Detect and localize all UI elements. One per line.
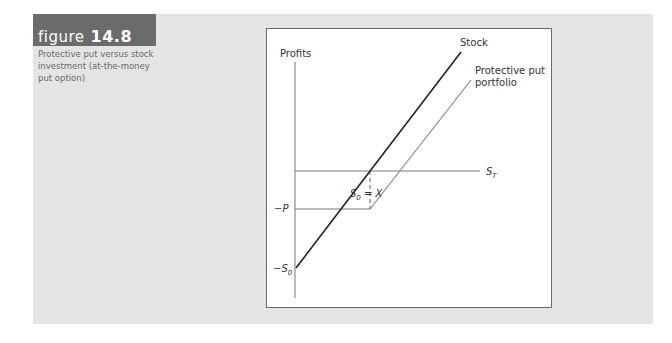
put-rising-segment (370, 80, 471, 209)
stock-line (296, 52, 461, 268)
neg-s0-label: −S0 (273, 263, 293, 277)
stock-label: Stock (460, 37, 488, 48)
profits-label: Profits (280, 48, 311, 59)
payoff-chart: Profits Stock Protective put portfolio S… (0, 0, 672, 343)
put-label-line2: portfolio (475, 77, 517, 88)
put-label-line1: Protective put (475, 65, 545, 76)
neg-p-label: −P (274, 203, 289, 214)
st-label: ST (486, 166, 497, 180)
s0-eq-x-label: S0 = X (350, 188, 384, 202)
